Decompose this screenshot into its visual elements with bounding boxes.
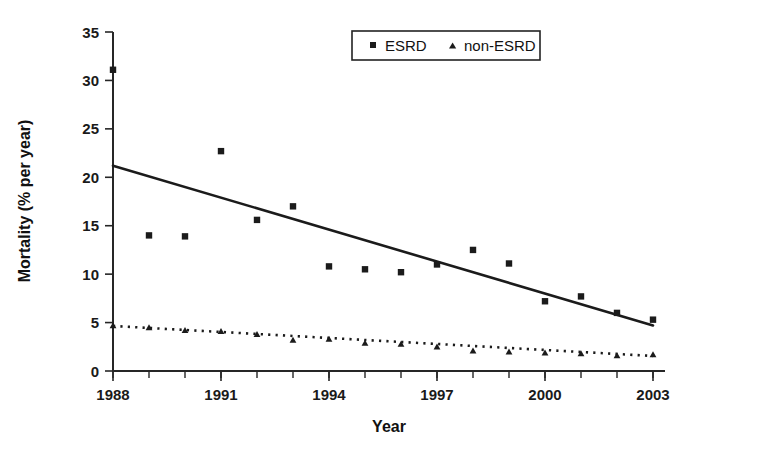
data-point-non-esrd [470,347,477,353]
data-point-esrd [434,261,440,267]
y-axis-title: Mortality (% per year) [16,120,33,283]
data-point-non-esrd [506,348,513,354]
legend-label-esrd: ESRD [385,37,427,54]
y-tick-label: 30 [82,72,99,89]
chart-figure: 05101520253035 198819911994199720002003 … [0,0,765,449]
legend-label-non-esrd: non-ESRD [464,37,536,54]
data-points-esrd [110,67,656,323]
trendline-non-esrd [113,326,653,356]
scatter-plot: 05101520253035 198819911994199720002003 … [0,0,765,449]
x-axis-ticks: 198819911994199720002003 [96,371,669,403]
data-point-esrd [110,67,116,73]
data-point-esrd [578,293,584,299]
data-point-esrd [614,310,620,316]
x-tick-label: 1997 [420,386,453,403]
y-tick-label: 10 [82,266,99,283]
data-point-esrd [326,263,332,269]
data-point-esrd [362,266,368,272]
x-axis-minor-ticks [113,371,653,378]
y-tick-label: 15 [82,217,99,234]
data-point-esrd [506,260,512,266]
data-points-non-esrd [110,322,657,358]
x-axis-title: Year [372,418,406,435]
data-point-esrd [182,233,188,239]
data-point-esrd [290,203,296,209]
y-axis-ticks: 05101520253035 [82,24,113,380]
data-point-esrd [398,269,404,275]
x-tick-label: 1994 [312,386,346,403]
data-point-non-esrd [362,340,369,346]
y-tick-label: 35 [82,24,99,41]
x-tick-label: 1991 [204,386,237,403]
y-tick-label: 0 [91,363,99,380]
x-tick-label: 1988 [96,386,129,403]
data-point-non-esrd [326,336,333,342]
trendline-esrd [113,166,653,326]
data-point-esrd [218,148,224,154]
data-point-esrd [470,247,476,253]
trend-lines [113,166,653,356]
y-tick-label: 20 [82,169,99,186]
chart-legend: ESRD non-ESRD [352,31,540,60]
data-point-non-esrd [650,351,657,357]
data-point-esrd [650,316,656,322]
data-point-esrd [146,232,152,238]
legend-marker-esrd [370,42,376,48]
data-point-esrd [254,217,260,223]
data-point-esrd [542,298,548,304]
y-tick-label: 25 [82,120,99,137]
x-tick-label: 2003 [636,386,669,403]
data-point-non-esrd [290,337,297,343]
y-tick-label: 5 [91,314,99,331]
x-tick-label: 2000 [528,386,561,403]
data-point-non-esrd [614,352,621,358]
